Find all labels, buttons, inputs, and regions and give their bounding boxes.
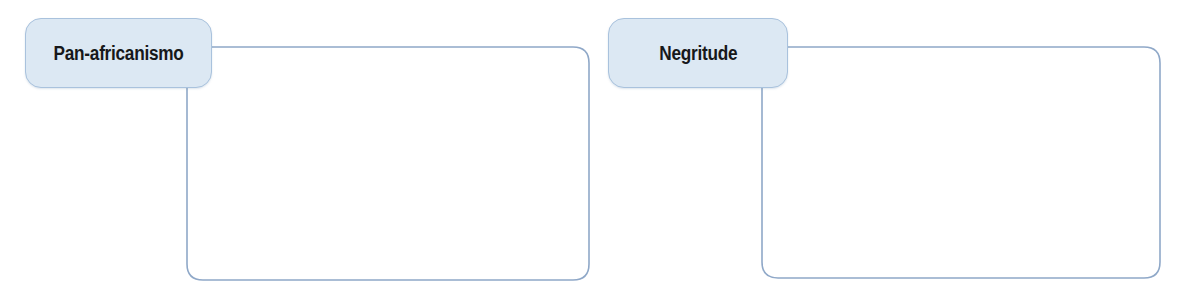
label-chip-negritude[interactable]: Negritude <box>608 18 788 88</box>
label-chip-text-negritude: Negritude <box>659 43 737 63</box>
diagram-canvas: Pan-africanismo Negritude <box>0 0 1190 294</box>
frame-content-negritude <box>776 61 1146 264</box>
